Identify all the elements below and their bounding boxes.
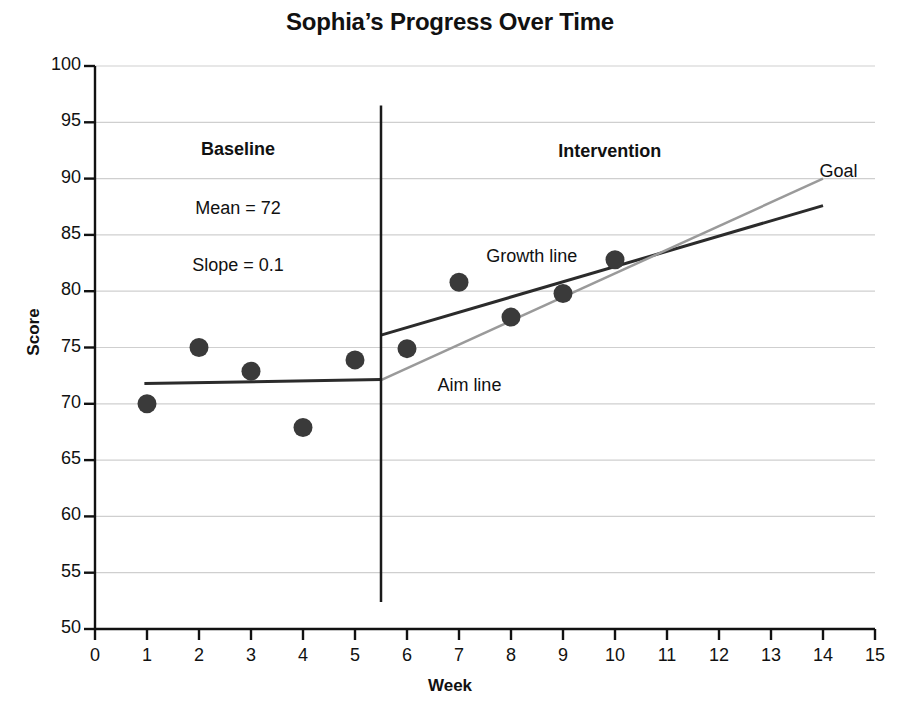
x-tick-label-1: 1 <box>127 645 167 666</box>
y-tick-label-65: 65 <box>37 448 81 469</box>
x-tick-label-5: 5 <box>335 645 375 666</box>
trend-lines-group <box>144 105 823 602</box>
plot-area <box>0 0 900 712</box>
data-point <box>346 350 365 369</box>
y-tick-label-85: 85 <box>37 223 81 244</box>
x-tick-label-13: 13 <box>751 645 791 666</box>
baseline-mean-label: Mean = 72 <box>195 198 281 219</box>
y-tick-label-100: 100 <box>37 54 81 75</box>
y-axis-title: Score <box>24 292 44 372</box>
y-tick-label-55: 55 <box>37 561 81 582</box>
x-tick-label-10: 10 <box>595 645 635 666</box>
y-tick-label-95: 95 <box>37 110 81 131</box>
data-point <box>450 273 469 292</box>
y-tick-label-75: 75 <box>37 336 81 357</box>
aim-line <box>381 179 823 381</box>
data-point <box>138 394 157 413</box>
x-tick-label-6: 6 <box>387 645 427 666</box>
aim-line-label: Aim line <box>437 375 501 396</box>
data-point <box>606 250 625 269</box>
y-tick-label-90: 90 <box>37 167 81 188</box>
y-tick-label-50: 50 <box>37 617 81 638</box>
x-tick-label-15: 15 <box>855 645 895 666</box>
y-tick-label-60: 60 <box>37 504 81 525</box>
x-tick-label-14: 14 <box>803 645 843 666</box>
x-tick-label-4: 4 <box>283 645 323 666</box>
goal-label: Goal <box>820 161 858 182</box>
growth-line <box>381 206 823 335</box>
x-tick-label-3: 3 <box>231 645 271 666</box>
x-tick-label-12: 12 <box>699 645 739 666</box>
x-tick-label-2: 2 <box>179 645 219 666</box>
data-point <box>502 308 521 327</box>
x-tick-label-8: 8 <box>491 645 531 666</box>
chart-figure: Sophia’s Progress Over Time Score Week 5… <box>0 0 900 712</box>
y-tick-label-70: 70 <box>37 392 81 413</box>
growth-line-label: Growth line <box>486 246 577 267</box>
data-point <box>242 362 261 381</box>
baseline-phase-label: Baseline <box>201 139 275 160</box>
intervention-phase-label: Intervention <box>558 141 661 162</box>
data-point <box>554 284 573 303</box>
x-axis-title: Week <box>0 676 900 696</box>
y-tick-label-80: 80 <box>37 279 81 300</box>
data-point <box>398 339 417 358</box>
data-point <box>294 418 313 437</box>
baseline-trend-line <box>144 380 381 384</box>
x-tick-label-9: 9 <box>543 645 583 666</box>
data-point <box>190 338 209 357</box>
x-tick-label-7: 7 <box>439 645 479 666</box>
x-tick-label-0: 0 <box>75 645 115 666</box>
baseline-slope-label: Slope = 0.1 <box>192 255 284 276</box>
x-tick-label-11: 11 <box>647 645 687 666</box>
